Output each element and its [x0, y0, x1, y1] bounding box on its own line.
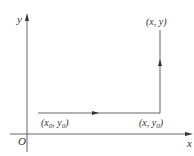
y-axis-label: y: [16, 13, 22, 25]
coordinate-diagram: y O x (x, y) (x0, y0) (x, y0): [0, 0, 194, 156]
origin-label: O: [18, 135, 26, 147]
y-axis-arrow-icon: [25, 13, 29, 21]
x-axis-arrow-icon: [185, 132, 193, 136]
x-axis-label: x: [186, 137, 192, 149]
up-arrow-icon: [158, 59, 162, 66]
start-point-label: (x0, y0): [41, 117, 69, 130]
corner-point-label: (x, y0): [139, 117, 164, 130]
horizontal-path: [38, 111, 160, 115]
end-point-label: (x, y): [146, 16, 167, 28]
y-axis: [25, 13, 29, 152]
vertical-path: [158, 30, 162, 113]
x-axis: [10, 132, 193, 136]
right-arrow-icon: [92, 111, 99, 115]
